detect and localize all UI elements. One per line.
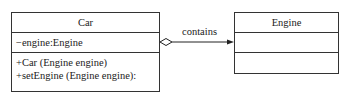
aggregation-diamond-icon bbox=[160, 39, 172, 46]
relation-label: contains bbox=[182, 26, 217, 37]
arrowhead-icon bbox=[227, 40, 234, 45]
aggregation-connector bbox=[0, 0, 347, 100]
